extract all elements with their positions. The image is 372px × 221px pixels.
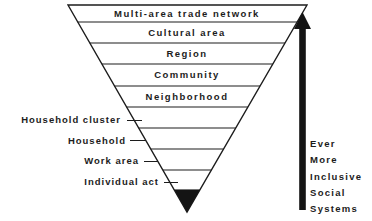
pyramid-tip (174, 190, 199, 212)
level-label-neighborhood: Neighborhood (146, 92, 229, 102)
tick-individual-act (164, 182, 178, 183)
level-label-work-area: Work area (84, 156, 139, 166)
level-label-cultural-area: Cultural area (148, 28, 226, 38)
inverted-pyramid-diagram: Multi-area trade network Cultural area R… (0, 0, 372, 221)
arrow-caption-line: Systems (310, 201, 362, 217)
up-arrow-shaft (299, 28, 306, 210)
up-arrow-icon (294, 12, 311, 210)
level-label-household-cluster: Household cluster (21, 115, 121, 125)
arrow-caption-line: Social (310, 185, 362, 201)
arrow-caption-line: More (310, 152, 362, 168)
arrow-caption-line: Ever (310, 136, 362, 152)
level-label-individual-act: Individual act (84, 177, 159, 187)
tick-household (130, 140, 146, 141)
arrow-caption-line: Inclusive (310, 169, 362, 185)
tick-work-area (144, 161, 158, 162)
level-label-community: Community (154, 70, 220, 80)
level-label-region: Region (166, 49, 207, 59)
arrow-caption: Ever More Inclusive Social Systems (310, 136, 362, 217)
level-label-multi-area-trade-network: Multi-area trade network (114, 9, 260, 19)
level-label-household: Household (68, 136, 126, 146)
tick-household-cluster (127, 120, 142, 121)
